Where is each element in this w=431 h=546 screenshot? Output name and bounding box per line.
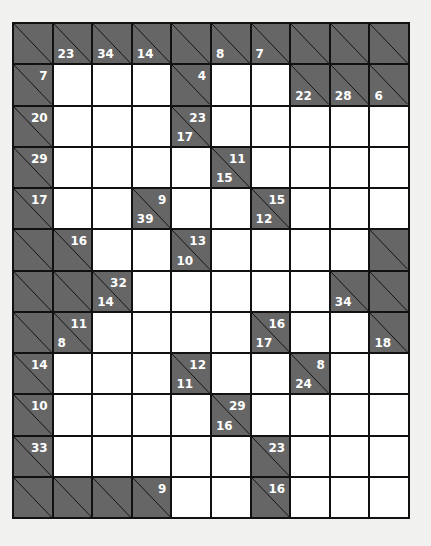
entry-cell[interactable]: [54, 189, 92, 228]
entry-cell[interactable]: [331, 107, 369, 146]
entry-cell[interactable]: [93, 107, 131, 146]
down-sum: 14: [97, 296, 114, 308]
entry-cell[interactable]: [331, 189, 369, 228]
clue-cell: 6: [370, 65, 408, 104]
entry-cell[interactable]: [172, 478, 210, 517]
diagonal-divider-icon: [14, 313, 52, 352]
entry-cell[interactable]: [93, 189, 131, 228]
entry-cell[interactable]: [370, 148, 408, 187]
clue-cell: 1115: [212, 148, 250, 187]
entry-cell[interactable]: [252, 272, 290, 311]
entry-cell[interactable]: [331, 354, 369, 393]
entry-cell[interactable]: [133, 148, 171, 187]
entry-cell[interactable]: [54, 148, 92, 187]
clue-cell: 7: [14, 65, 52, 104]
entry-cell[interactable]: [370, 478, 408, 517]
entry-cell[interactable]: [54, 107, 92, 146]
across-sum: 16: [70, 235, 87, 247]
entry-cell[interactable]: [252, 230, 290, 269]
entry-cell[interactable]: [212, 107, 250, 146]
entry-cell[interactable]: [291, 437, 329, 476]
entry-cell[interactable]: [291, 148, 329, 187]
entry-cell[interactable]: [370, 189, 408, 228]
entry-cell[interactable]: [331, 148, 369, 187]
entry-cell[interactable]: [331, 437, 369, 476]
entry-cell[interactable]: [133, 65, 171, 104]
entry-cell[interactable]: [93, 65, 131, 104]
entry-cell[interactable]: [370, 354, 408, 393]
entry-cell[interactable]: [93, 354, 131, 393]
entry-cell[interactable]: [133, 313, 171, 352]
down-sum: 17: [176, 131, 193, 143]
entry-cell[interactable]: [172, 272, 210, 311]
across-sum: 29: [31, 153, 48, 165]
clue-cell: 824: [291, 354, 329, 393]
entry-cell[interactable]: [252, 107, 290, 146]
entry-cell[interactable]: [291, 230, 329, 269]
entry-cell[interactable]: [370, 107, 408, 146]
entry-cell[interactable]: [93, 395, 131, 434]
entry-cell[interactable]: [291, 313, 329, 352]
entry-cell[interactable]: [93, 313, 131, 352]
down-sum: 34: [335, 296, 352, 308]
entry-cell[interactable]: [93, 230, 131, 269]
entry-cell[interactable]: [370, 395, 408, 434]
entry-cell[interactable]: [331, 230, 369, 269]
blocked-cell: [291, 24, 329, 63]
entry-cell[interactable]: [133, 230, 171, 269]
across-sum: 12: [189, 359, 206, 371]
down-sum: 17: [256, 337, 273, 349]
entry-cell[interactable]: [291, 272, 329, 311]
blocked-cell: [93, 478, 131, 517]
entry-cell[interactable]: [331, 395, 369, 434]
entry-cell[interactable]: [291, 107, 329, 146]
entry-cell[interactable]: [291, 395, 329, 434]
entry-cell[interactable]: [93, 437, 131, 476]
entry-cell[interactable]: [252, 395, 290, 434]
entry-cell[interactable]: [212, 478, 250, 517]
entry-cell[interactable]: [133, 107, 171, 146]
down-sum: 39: [137, 213, 154, 225]
clue-cell: 4: [172, 65, 210, 104]
entry-cell[interactable]: [133, 437, 171, 476]
down-sum: 15: [216, 172, 233, 184]
entry-cell[interactable]: [212, 65, 250, 104]
entry-cell[interactable]: [291, 189, 329, 228]
entry-cell[interactable]: [54, 437, 92, 476]
clue-cell: 9: [133, 478, 171, 517]
entry-cell[interactable]: [291, 478, 329, 517]
diagonal-divider-icon: [14, 230, 52, 269]
entry-cell[interactable]: [133, 395, 171, 434]
entry-cell[interactable]: [370, 437, 408, 476]
entry-cell[interactable]: [252, 65, 290, 104]
entry-cell[interactable]: [54, 395, 92, 434]
entry-cell[interactable]: [172, 395, 210, 434]
entry-cell[interactable]: [212, 230, 250, 269]
diagonal-divider-icon: [370, 272, 408, 311]
entry-cell[interactable]: [212, 437, 250, 476]
entry-cell[interactable]: [212, 313, 250, 352]
entry-cell[interactable]: [172, 148, 210, 187]
entry-cell[interactable]: [212, 272, 250, 311]
across-sum: 8: [316, 359, 324, 371]
clue-cell: 29: [14, 148, 52, 187]
entry-cell[interactable]: [331, 478, 369, 517]
entry-cell[interactable]: [252, 354, 290, 393]
across-sum: 9: [158, 194, 166, 206]
entry-cell[interactable]: [54, 65, 92, 104]
across-sum: 17: [31, 194, 48, 206]
entry-cell[interactable]: [54, 354, 92, 393]
entry-cell[interactable]: [133, 354, 171, 393]
entry-cell[interactable]: [93, 148, 131, 187]
entry-cell[interactable]: [331, 313, 369, 352]
entry-cell[interactable]: [212, 189, 250, 228]
entry-cell[interactable]: [172, 189, 210, 228]
entry-cell[interactable]: [172, 313, 210, 352]
entry-cell[interactable]: [212, 354, 250, 393]
entry-cell[interactable]: [133, 272, 171, 311]
blocked-cell: [14, 230, 52, 269]
entry-cell[interactable]: [172, 437, 210, 476]
clue-cell: 2317: [172, 107, 210, 146]
entry-cell[interactable]: [252, 148, 290, 187]
across-sum: 32: [110, 277, 127, 289]
